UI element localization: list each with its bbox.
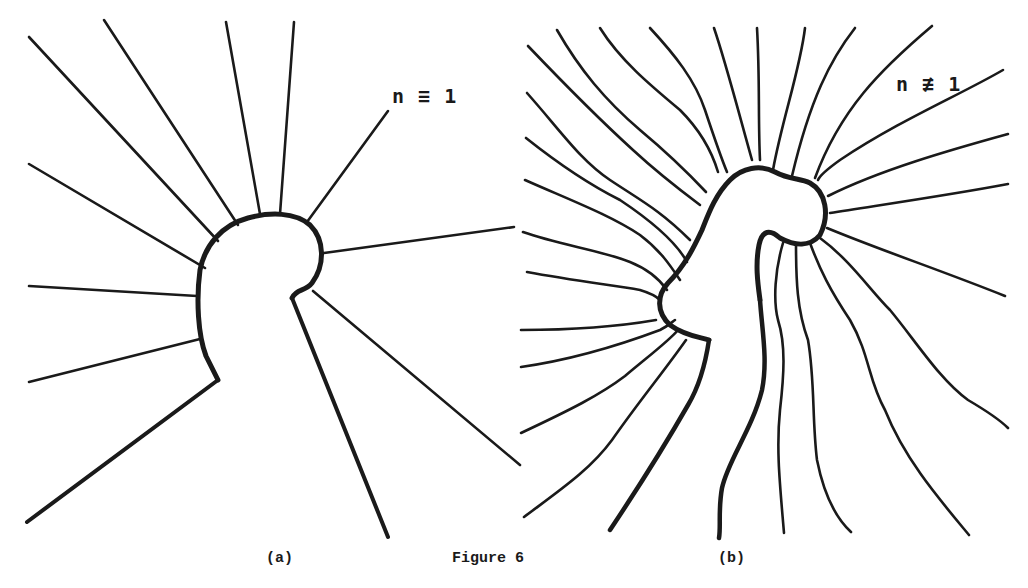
field-line (796, 243, 851, 532)
field-line (830, 184, 1008, 213)
panel-b-diagram (521, 26, 1008, 538)
panel-b-annotation: n ≢ 1 (896, 72, 961, 96)
field-line (815, 26, 932, 178)
field-line (226, 22, 260, 214)
field-line (827, 228, 1005, 296)
panel-a-subcaption: (a) (266, 550, 293, 567)
panel-b-inner-stem (719, 300, 765, 538)
field-line (820, 238, 1008, 428)
field-line (524, 340, 686, 517)
field-line (104, 20, 238, 225)
field-line (307, 111, 388, 222)
figure-caption: Figure 6 (452, 550, 524, 567)
field-line (828, 134, 1008, 196)
figure-canvas (0, 0, 1028, 588)
field-line (810, 243, 969, 535)
field-line (324, 227, 514, 253)
panel-a-boundary-lines (27, 298, 388, 537)
field-line (757, 28, 760, 160)
field-line (29, 339, 200, 382)
field-line (313, 291, 520, 465)
panel-a-annotation: n ≡ 1 (392, 84, 457, 108)
field-line (526, 138, 687, 262)
field-line (280, 22, 294, 214)
field-line (714, 28, 752, 160)
field-line (525, 180, 680, 280)
boundary-line (292, 298, 388, 537)
figure-6: n ≡ 1 n ≢ 1 (a) Figure 6 (b) (0, 0, 1028, 588)
panel-a-body-outline (198, 214, 322, 380)
panel-b-subcaption: (b) (718, 550, 745, 567)
field-line (557, 30, 706, 192)
field-line (527, 272, 660, 300)
field-line (650, 28, 727, 172)
field-line (775, 243, 784, 533)
panel-b-left-stem (610, 340, 709, 530)
field-line (29, 37, 218, 241)
panel-b-field-lines (521, 26, 1008, 535)
field-line (521, 320, 656, 330)
field-line (29, 286, 197, 296)
boundary-line (27, 380, 218, 522)
field-line (29, 164, 205, 268)
